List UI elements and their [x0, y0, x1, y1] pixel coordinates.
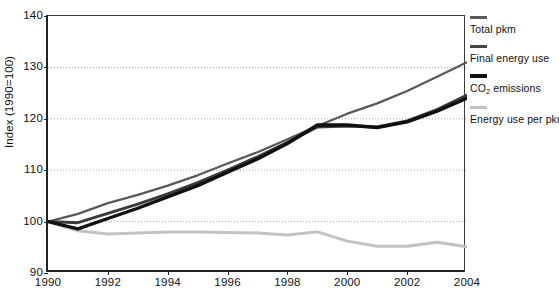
- y-axis-tick-mark: [44, 170, 48, 171]
- series-line-co2-emissions: [48, 98, 467, 229]
- x-axis-tick-label: 2000: [334, 277, 360, 289]
- y-axis-tick-label: 130: [23, 62, 43, 74]
- chart-figure: Index (1990=100) 90100110120130140199019…: [0, 0, 559, 297]
- y-axis-tick-mark: [44, 16, 48, 17]
- x-axis-tick-label: 2002: [394, 277, 420, 289]
- series-line-total-pkm: [48, 62, 467, 221]
- legend-item: Energy use per pkm: [470, 106, 559, 125]
- y-axis-title: Index (1990=100): [3, 56, 15, 148]
- legend-item-label: CO2 emissions: [470, 82, 559, 96]
- legend-item-label: Energy use per pkm: [470, 113, 559, 125]
- legend-swatch-icon: [470, 45, 487, 48]
- legend-item-label: Final energy use: [470, 52, 559, 64]
- x-axis-tick-mark: [168, 270, 169, 275]
- x-axis-tick-label: 1994: [155, 277, 181, 289]
- legend-item-label: Total pkm: [470, 23, 559, 35]
- legend-item: CO2 emissions: [470, 74, 559, 96]
- x-axis-tick-mark: [108, 270, 109, 275]
- chart-legend: Total pkmFinal energy useCO2 emissionsEn…: [470, 16, 559, 135]
- y-axis-tick-mark: [44, 67, 48, 68]
- y-axis-tick-label: 120: [23, 113, 43, 125]
- x-axis-tick-label: 1998: [274, 277, 300, 289]
- x-axis-tick-mark: [407, 270, 408, 275]
- y-axis-tick-mark: [44, 119, 48, 120]
- x-axis-tick-label: 1992: [95, 277, 121, 289]
- x-axis-tick-mark: [228, 270, 229, 275]
- y-axis-tick-mark: [44, 222, 48, 223]
- y-axis-tick-label: 110: [24, 164, 43, 176]
- y-axis-tick-mark: [44, 273, 48, 274]
- series-canvas: [48, 16, 467, 273]
- legend-item: Total pkm: [470, 16, 559, 35]
- x-axis-tick-label: 1996: [214, 277, 240, 289]
- y-axis-tick-label: 140: [23, 10, 43, 22]
- plot-area: 9010011012013014019901992199419961998200…: [46, 15, 465, 272]
- legend-swatch-icon: [470, 106, 487, 109]
- legend-item: Final energy use: [470, 45, 559, 64]
- x-axis-tick-mark: [287, 270, 288, 275]
- x-axis-tick-label: 1990: [35, 277, 61, 289]
- legend-swatch-icon: [470, 16, 487, 19]
- series-line-energy-use-per-pkm: [48, 222, 467, 247]
- x-axis-tick-label: 2004: [454, 277, 480, 289]
- x-axis-tick-mark: [347, 270, 348, 275]
- legend-swatch-icon: [470, 74, 487, 78]
- y-axis-tick-label: 100: [23, 216, 43, 228]
